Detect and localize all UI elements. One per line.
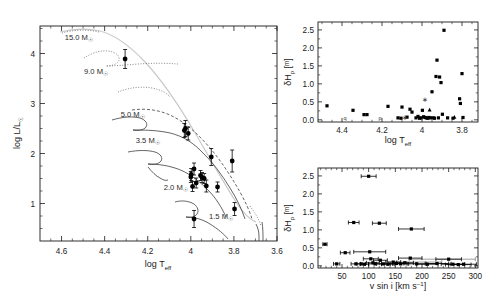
hrd-mass-label-5: 1.5 M☉ [209,212,233,222]
teff-tick-marks [318,22,478,122]
teff-data-point [438,75,441,78]
teff-triangle-marker [428,108,432,112]
teff-data-point [433,117,436,120]
teff-data-point [400,105,403,108]
teff-data-point [437,116,440,119]
vsini-data-points [323,174,477,266]
vsini-xtick-label: 300 [468,272,482,281]
vsini-xtick-label: 250 [442,272,456,281]
teff-xaxis-label: log Teff [385,135,412,147]
hrd-ytick-label: 3 [30,100,35,109]
teff-ytick-label: 1.0 [303,80,315,89]
vsini-data-point [352,221,355,224]
vsini-data-point [363,263,366,266]
hrd-data-point [209,155,214,160]
vsini-ytick-label: 2.0 [303,190,315,199]
vsini-ytick-label: 0.5 [303,244,315,253]
teff-letter-marker-q: q [343,115,346,121]
vsini-xtick-label: 50 [337,272,347,281]
hrd-data-point [204,184,209,189]
teff-data-points: ∗∗ [325,29,464,121]
teff-xtick-label: 4.4 [336,126,348,135]
teff-data-point [429,116,432,119]
teff-ytick-label: 2.5 [303,26,315,35]
teff-letter-marker-p: p [378,115,381,121]
teff-data-point [461,116,464,119]
teff-data-point [430,90,433,93]
hrd-data-point [182,128,187,133]
track-9msun [84,51,178,66]
zams-dotted [250,206,261,226]
vsini-ytick-label: 2.5 [303,172,315,181]
teff-data-point [362,113,365,116]
hrd-data-point [186,131,191,136]
hrd-yaxis-label: log L/L☉ [12,117,24,149]
teff-data-point [435,59,438,62]
hrd-xtick-label: 4.6 [56,247,68,256]
teff-data-point [434,75,437,78]
hrd-data-point [123,57,128,62]
teff-data-point [365,113,368,116]
teff-data-point [446,116,449,119]
teff-ytick-label: 1.5 [303,62,315,71]
vsini-data-point [335,262,338,265]
vsini-ytick-label: 1.0 [303,226,315,235]
teff-data-point [459,102,462,105]
teff-data-point [396,116,399,119]
hrd-data-point [192,217,197,222]
hrd-mass-label-2: 5.0 M☉ [121,110,145,120]
teff-data-point [421,109,424,112]
teff-data-point [351,109,354,112]
vsini-data-point [435,262,438,265]
vsini-data-point [426,263,429,266]
vsini-xtick-label: 200 [415,272,429,281]
hrd-mass-label-1: 9.0 M☉ [84,67,108,77]
teff-xtick-label: 4.2 [376,126,388,135]
teff-data-point [442,29,445,32]
figure-canvas: 4.64.44.243.83.61234 [0,0,496,296]
vsini-ytick-label: 0.0 [303,262,315,271]
panel-amplitude-teff: 4.44.243.80.00.51.01.52.02.5 ∗∗ qp log T… [283,22,478,147]
vsini-ytick-label: 1.5 [303,208,315,217]
hrd-data-point [232,207,237,212]
teff-data-point [325,104,328,107]
vsini-data-point [323,243,326,246]
teff-data-point [458,97,461,100]
teff-tick-labels: 4.44.243.80.00.51.01.52.02.5 [303,26,469,135]
hrd-mass-labels: 15.0 M☉9.0 M☉5.0 M☉3.5 M☉2.0 M☉1.5 M☉ [65,33,233,222]
vsini-data-point [462,263,465,266]
vsini-data-point [403,261,406,264]
vsini-data-point [368,250,371,253]
vsini-xtick-label: 100 [362,272,376,281]
hrd-data-point [188,175,193,180]
zams-line [256,224,259,241]
vsini-data-point [447,258,450,261]
astronomy-figure: 4.64.44.243.83.61234 [0,0,496,296]
zams-line-2 [262,222,263,241]
vsini-xaxis-label: v sin i [km s−1] [370,281,426,291]
teff-data-point [386,105,389,108]
panel-amplitude-vsini: 501001502002503000.00.51.01.52.02.5 v si… [283,168,483,291]
track-5msun-upper [118,87,170,97]
teff-data-point [441,113,444,116]
vsini-data-point [369,257,372,260]
teff-data-point [408,108,411,111]
track-20msun-hook [148,167,168,180]
hrd-ytick-label: 2 [30,150,35,159]
hrd-data-point [192,167,197,172]
hrd-xaxis-label: log Teff [145,259,172,271]
hrd-xtick-label: 4.2 [142,247,154,256]
vsini-xtick-label: 150 [388,272,402,281]
teff-data-point [410,111,413,114]
hrd-xtick-label: 3.6 [271,247,283,256]
teff-data-point [460,72,463,75]
hrd-xtick-label: 4.4 [99,247,111,256]
vsini-data-point [378,222,381,225]
teff-asterisk-marker: ∗ [402,114,408,121]
teff-ytick-label: 0.5 [303,98,315,107]
teff-asterisk-marker: ∗ [422,96,428,103]
teff-plot-frame [318,22,478,122]
panel-hrd: 4.64.44.243.83.61234 [12,26,283,271]
hrd-ytick-label: 4 [30,50,35,59]
vsini-data-point [373,262,376,265]
